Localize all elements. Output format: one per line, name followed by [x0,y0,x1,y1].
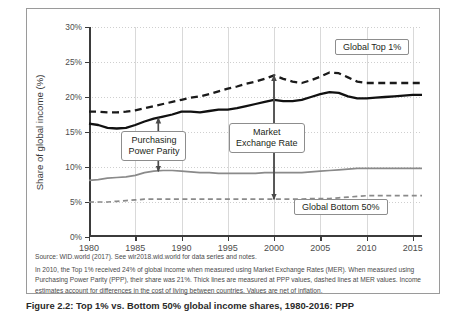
figure-notes: Source: WID.world (2017). See wir2018.wi… [35,252,431,297]
notes-source: Source: WID.world (2017). See wir2018.wi… [35,252,431,263]
callout-purchasing-power-parity: Purchasing Power Parity [121,131,186,161]
notes-line-2: In 2010, the Top 1% received 24% of glob… [35,265,431,276]
y-tick-label: 0% [70,232,82,242]
legend-global-top-1: Global Top 1% [335,39,409,55]
figure-container: Share of global income (%) 0%5%10%15%20%… [26,8,440,294]
y-tick-label: 25% [65,57,82,67]
figure-caption: Figure 2.2: Top 1% vs. Bottom 50% global… [26,300,446,311]
y-tick-label: 10% [65,162,82,172]
y-axis-title: Share of global income (%) [33,27,47,237]
callout-market-exchange-rate: Market Exchange Rate [229,123,305,153]
notes-line-4: estimates account for differences in the… [35,286,431,297]
y-tick-label: 20% [65,92,82,102]
y-tick-label: 15% [65,127,82,137]
y-tick-label: 5% [70,197,82,207]
notes-line-3: Purchasing Power Parity (PPP), their sha… [35,275,431,286]
legend-global-bottom-50: Global Bottom 50% [294,199,388,215]
y-tick-label: 30% [65,22,82,32]
